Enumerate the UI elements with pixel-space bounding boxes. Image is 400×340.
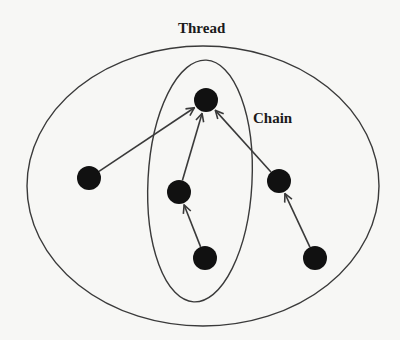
node-mid bbox=[167, 180, 191, 204]
thread-chain-diagram: Thread Chain bbox=[0, 0, 400, 340]
node-right bbox=[267, 169, 291, 193]
node-bottom-mid bbox=[193, 246, 217, 270]
edge-bottom-right-to-right bbox=[285, 194, 310, 247]
chain-label: Chain bbox=[253, 110, 292, 127]
edge-mid-to-root bbox=[182, 113, 202, 180]
node-root bbox=[194, 88, 218, 112]
diagram-canvas bbox=[0, 0, 400, 340]
edge-left-to-root bbox=[99, 108, 194, 172]
thread-label: Thread bbox=[178, 20, 225, 37]
edge-bottom-mid-to-mid bbox=[184, 205, 200, 247]
node-left bbox=[77, 166, 101, 190]
thread-boundary-ellipse bbox=[27, 46, 379, 326]
node-bottom-right bbox=[303, 246, 327, 270]
